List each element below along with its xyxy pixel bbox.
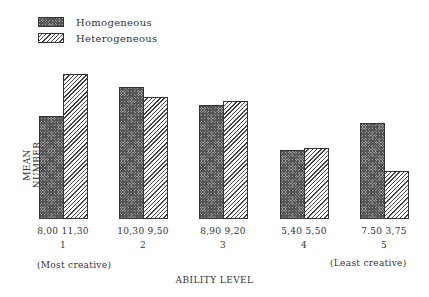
category-label: 3 bbox=[193, 240, 253, 250]
x-axis-label: ABILITY LEVEL bbox=[0, 275, 429, 285]
hom-value: 8,00 bbox=[37, 226, 58, 236]
hom-value: 10,30 bbox=[117, 226, 144, 236]
most-creative-note: (Most creative) bbox=[37, 260, 111, 270]
legend-item-homogeneous: Homogeneous bbox=[38, 14, 158, 30]
legend: Homogeneous Heterogeneous bbox=[38, 14, 158, 46]
het-value: 9,50 bbox=[148, 226, 169, 236]
het-value: 5,50 bbox=[306, 226, 327, 236]
category-label: 2 bbox=[113, 240, 173, 250]
hom-value: 7.50 bbox=[361, 226, 382, 236]
het-value: 11,30 bbox=[62, 226, 89, 236]
bar-heterogeneous-1 bbox=[63, 74, 88, 219]
bar-heterogeneous-5 bbox=[384, 171, 409, 219]
crosshatch-swatch-icon bbox=[38, 17, 64, 27]
bar-heterogeneous-4 bbox=[304, 148, 329, 219]
value-labels: 5,40 5,50 bbox=[274, 226, 334, 236]
het-value: 9,20 bbox=[225, 226, 246, 236]
bar-heterogeneous-3 bbox=[223, 101, 248, 219]
category-label: 1 bbox=[33, 240, 93, 250]
value-labels: 10,30 9,50 bbox=[113, 226, 173, 236]
diagonal-swatch-icon bbox=[38, 33, 64, 43]
bar-homogeneous-2 bbox=[119, 87, 144, 219]
legend-label: Heterogeneous bbox=[76, 33, 158, 44]
het-value: 3,75 bbox=[386, 226, 407, 236]
hom-value: 5,40 bbox=[281, 226, 302, 236]
least-creative-note: (Least creative) bbox=[330, 258, 407, 268]
category-label: 4 bbox=[274, 240, 334, 250]
value-labels: 7.50 3,75 bbox=[354, 226, 414, 236]
bar-homogeneous-3 bbox=[199, 105, 224, 219]
bar-homogeneous-1 bbox=[39, 116, 64, 219]
bar-heterogeneous-2 bbox=[143, 97, 168, 219]
value-labels: 8,90 9,20 bbox=[193, 226, 253, 236]
legend-label: Homogeneous bbox=[76, 17, 152, 28]
category-label: 5 bbox=[354, 240, 414, 250]
value-labels: 8,00 11,30 bbox=[33, 226, 93, 236]
bar-homogeneous-4 bbox=[280, 150, 305, 219]
bar-homogeneous-5 bbox=[360, 123, 385, 219]
legend-item-heterogeneous: Heterogeneous bbox=[38, 30, 158, 46]
hom-value: 8,90 bbox=[200, 226, 221, 236]
